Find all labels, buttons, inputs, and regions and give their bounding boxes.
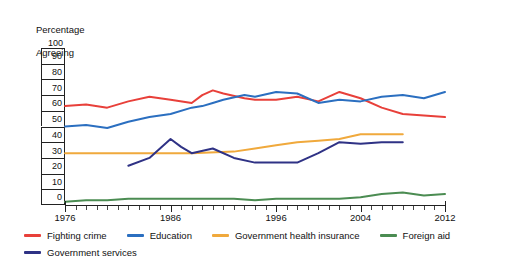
x-axis-tick xyxy=(86,206,87,210)
x-axis-tick xyxy=(350,206,351,210)
y-axis-tick-50: 50 xyxy=(41,111,65,127)
x-axis-tick xyxy=(318,206,319,210)
legend-label: Education xyxy=(150,230,192,241)
x-axis-tick xyxy=(339,206,340,210)
x-axis-tick-label-2004: 2004 xyxy=(350,212,371,223)
x-axis-tick xyxy=(329,206,330,210)
y-axis-tick-label: 50 xyxy=(52,114,62,124)
x-axis-tick xyxy=(202,206,203,210)
plot-area xyxy=(65,48,445,205)
x-axis-tick xyxy=(139,206,140,210)
legend-row: Fighting crimeEducationGovernment health… xyxy=(24,228,504,242)
x-axis-labels: 19761986199620042012 xyxy=(0,212,511,226)
x-axis-tick xyxy=(297,206,298,210)
x-axis-tick-label-1996: 1996 xyxy=(266,212,287,223)
legend-label: Government services xyxy=(47,247,137,258)
legend-swatch-icon xyxy=(212,234,229,237)
legend-item-government-health-insurance[interactable]: Government health insurance xyxy=(212,230,360,241)
y-axis-tick-label: 30 xyxy=(52,145,62,155)
chart-legend: Fighting crimeEducationGovernment health… xyxy=(24,228,504,262)
x-axis-tick xyxy=(223,206,224,210)
x-axis-tick xyxy=(413,206,414,210)
x-axis-tick xyxy=(424,206,425,210)
x-axis-tick xyxy=(213,206,214,210)
y-axis-tick-label: 0 xyxy=(57,192,62,202)
legend-label: Fighting crime xyxy=(47,230,107,241)
x-axis-tick xyxy=(76,206,77,210)
legend-item-foreign-aid[interactable]: Foreign aid xyxy=(380,230,451,241)
legend-item-fighting-crime[interactable]: Fighting crime xyxy=(24,230,107,241)
x-axis-tick xyxy=(107,206,108,210)
x-axis-tick-label-1986: 1986 xyxy=(160,212,181,223)
x-axis-tick xyxy=(266,206,267,210)
x-axis-ticks xyxy=(65,206,445,211)
x-axis-tick xyxy=(149,206,150,210)
y-axis-tick-40: 40 xyxy=(41,127,65,143)
y-axis-tick-30: 30 xyxy=(41,142,65,158)
x-axis-tick xyxy=(382,206,383,210)
y-axis-title-line1: Percentage xyxy=(36,24,85,36)
line-chart: Percentage Agreeing 100 9080706050403020… xyxy=(0,0,511,262)
x-axis-end-cap xyxy=(65,201,66,207)
x-axis-tick xyxy=(118,206,119,210)
x-axis-tick xyxy=(308,206,309,210)
y-axis-tick-label: 10 xyxy=(52,177,62,187)
x-axis-tick xyxy=(160,206,161,210)
x-axis-tick xyxy=(434,206,435,210)
x-axis-tick xyxy=(234,206,235,210)
y-axis-tick-label: 40 xyxy=(52,130,62,140)
y-axis-tick-20: 20 xyxy=(41,158,65,174)
x-axis-tick xyxy=(192,206,193,210)
x-axis-tick xyxy=(403,206,404,210)
y-axis-tick-100: 100 xyxy=(41,38,65,48)
y-axis-tick-60: 60 xyxy=(41,95,65,111)
legend-item-government-services[interactable]: Government services xyxy=(24,247,137,258)
legend-label: Government health insurance xyxy=(235,230,360,241)
x-axis-tick-label-1976: 1976 xyxy=(54,212,75,223)
x-axis-tick xyxy=(371,206,372,210)
legend-swatch-icon xyxy=(127,234,144,237)
x-axis-tick xyxy=(287,206,288,210)
legend-swatch-icon xyxy=(24,251,41,254)
legend-row: Government services xyxy=(24,245,504,259)
y-axis-tick-label: 90 xyxy=(52,51,62,61)
x-axis-end-cap xyxy=(445,201,446,207)
legend-label: Foreign aid xyxy=(403,230,451,241)
legend-item-education[interactable]: Education xyxy=(127,230,192,241)
y-axis-tick-80: 80 xyxy=(41,64,65,80)
y-axis-tick-label: 60 xyxy=(52,98,62,108)
y-axis-tick-90: 90 xyxy=(41,48,65,64)
x-axis-tick xyxy=(97,206,98,210)
series-line-fighting-crime xyxy=(65,90,445,117)
y-axis-tick-70: 70 xyxy=(41,79,65,95)
y-axis: 9080706050403020100 xyxy=(41,48,65,205)
y-axis-tick-10: 10 xyxy=(41,174,65,190)
series-line-foreign-aid xyxy=(65,192,445,201)
y-axis-tick-0: 0 xyxy=(41,189,65,205)
x-axis-tick xyxy=(392,206,393,210)
x-axis-tick xyxy=(244,206,245,210)
legend-swatch-icon xyxy=(24,234,41,237)
y-axis-tick-label: 20 xyxy=(52,161,62,171)
series-canvas xyxy=(65,48,445,205)
x-axis-tick-label-2012: 2012 xyxy=(434,212,455,223)
x-axis-tick xyxy=(255,206,256,210)
x-axis-tick xyxy=(181,206,182,210)
y-axis-tick-label: 80 xyxy=(52,67,62,77)
y-axis-tick-label: 70 xyxy=(52,83,62,93)
x-axis-tick xyxy=(128,206,129,210)
legend-swatch-icon xyxy=(380,234,397,237)
